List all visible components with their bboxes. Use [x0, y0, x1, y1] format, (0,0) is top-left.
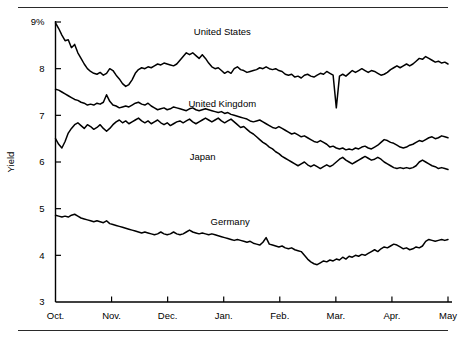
x-tick-label: May [439, 310, 457, 321]
series-label-japan: Japan [190, 151, 216, 162]
series-line-germany [56, 214, 449, 264]
x-tick-label: Mar. [327, 310, 345, 321]
y-tick-label: 6 [39, 156, 44, 167]
x-axis: Oct.Nov.Dec.Jan.Feb.Mar.Apr.May [47, 297, 457, 322]
series-labels: United StatesUnited KingdomJapanGermany [189, 26, 257, 226]
y-tick-label: 9% [31, 16, 45, 27]
yield-line-chart: 3456789% Oct.Nov.Dec.Jan.Feb.Mar.Apr.May… [0, 0, 462, 340]
series-label-united-states: United States [194, 26, 251, 37]
y-tick-label: 4 [39, 250, 44, 261]
series-label-germany: Germany [211, 216, 250, 227]
series-line-japan [56, 118, 449, 169]
y-axis: 3456789% [31, 16, 61, 307]
series-lines [56, 23, 449, 265]
x-tick-label: Feb. [270, 310, 289, 321]
y-tick-label: 8 [39, 63, 44, 74]
x-tick-label: Oct. [47, 310, 64, 321]
x-tick-label: Apr. [383, 310, 400, 321]
series-line-united-states [56, 23, 449, 108]
y-axis-title: Yield [5, 152, 16, 173]
y-tick-label: 7 [39, 110, 44, 121]
x-tick-label: Dec. [158, 310, 178, 321]
y-tick-label: 5 [39, 203, 44, 214]
y-axis-title-text: Yield [5, 152, 16, 173]
y-tick-label: 3 [39, 296, 44, 307]
x-tick-label: Jan. [215, 310, 233, 321]
series-label-united-kingdom: United Kingdom [189, 98, 257, 109]
chart-figure: 3456789% Oct.Nov.Dec.Jan.Feb.Mar.Apr.May… [0, 0, 462, 340]
x-tick-label: Nov. [102, 310, 121, 321]
